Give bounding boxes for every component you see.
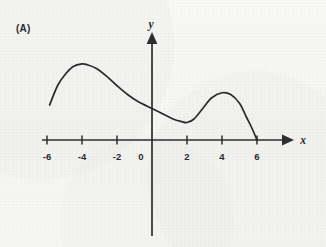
xtick-label: 4 — [219, 151, 225, 162]
xtick-label: 6 — [254, 151, 259, 162]
xtick-label: -6 — [43, 151, 51, 162]
y-axis-label: y — [146, 18, 154, 31]
function-curve — [50, 64, 257, 140]
y-axis-arrowhead-icon — [147, 32, 158, 44]
xtick-label: -2 — [113, 151, 121, 162]
figure-container: (A) -6 -4 -2 0 2 4 6 x y — [0, 0, 326, 247]
x-axis-arrowhead-icon — [282, 135, 294, 146]
xtick-label: 2 — [184, 151, 189, 162]
x-axis-label: x — [299, 134, 306, 146]
xtick-label-origin: 0 — [138, 151, 143, 162]
graph-plot: -6 -4 -2 0 2 4 6 x y — [0, 0, 326, 247]
xtick-label: -4 — [78, 151, 87, 162]
